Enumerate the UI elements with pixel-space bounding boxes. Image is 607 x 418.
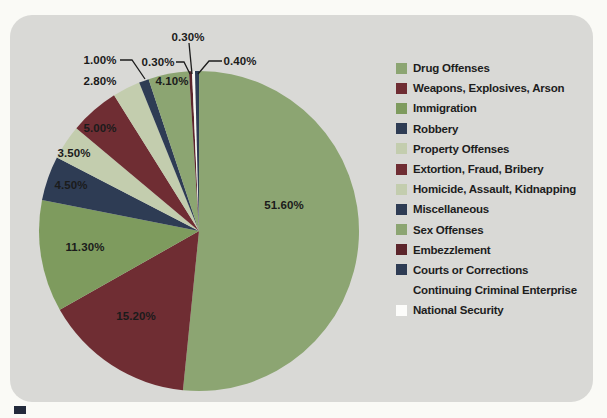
legend-label: National Security (413, 304, 504, 316)
legend-label: Weapons, Explosives, Arson (413, 82, 564, 94)
legend-item-drug-offenses: Drug Offenses (396, 58, 577, 78)
legend-swatch (396, 285, 407, 296)
legend-swatch (396, 184, 407, 195)
legend-label: Drug Offenses (413, 62, 490, 74)
legend-item-extortion-fraud-bribery: Extortion, Fraud, Bribery (396, 159, 577, 179)
legend-item-miscellaneous: Miscellaneous (396, 199, 577, 219)
legend-item-continuing-criminal-enterprise: Continuing Criminal Enterprise (396, 280, 577, 300)
legend-label: Immigration (413, 102, 477, 114)
legend-item-homicide-assault-kidnapping: Homicide, Assault, Kidnapping (396, 179, 577, 199)
legend-item-embezzlement: Embezzlement (396, 240, 577, 260)
legend-swatch (396, 305, 407, 316)
legend-item-property-offenses: Property Offenses (396, 139, 577, 159)
legend-label: Extortion, Fraud, Bribery (413, 163, 543, 175)
legend-swatch (396, 204, 407, 215)
legend-label: Miscellaneous (413, 203, 489, 215)
legend-swatch (396, 143, 407, 154)
legend-item-sex-offenses: Sex Offenses (396, 220, 577, 240)
legend-swatch (396, 224, 407, 235)
legend-label: Continuing Criminal Enterprise (413, 284, 577, 296)
legend-label: Property Offenses (413, 143, 509, 155)
callout-line-continuing-criminal-enterprise (189, 43, 192, 74)
legend-label: Embezzlement (413, 244, 490, 256)
legend-item-courts-or-corrections: Courts or Corrections (396, 260, 577, 280)
pie-slice-drug-offenses (183, 71, 359, 391)
callout-line-miscellaneous (120, 60, 145, 79)
legend-swatch (396, 63, 407, 74)
legend-item-weapons-explosives-arson: Weapons, Explosives, Arson (396, 78, 577, 98)
legend-label: Homicide, Assault, Kidnapping (413, 183, 576, 195)
legend-swatch (396, 244, 407, 255)
legend-swatch (396, 103, 407, 114)
legend-label: Robbery (413, 123, 458, 135)
legend-item-national-security: National Security (396, 300, 577, 320)
legend-swatch (396, 264, 407, 275)
legend-swatch (396, 164, 407, 175)
legend-label: Sex Offenses (413, 224, 483, 236)
figure: 51.60%15.20%11.30%4.50%3.50%5.00%2.80%1.… (0, 0, 607, 418)
legend-swatch (396, 123, 407, 134)
legend-swatch (396, 83, 407, 94)
figure-marker-square (14, 406, 26, 414)
legend-item-immigration: Immigration (396, 98, 577, 118)
legend-label: Courts or Corrections (413, 264, 528, 276)
legend: Drug OffensesWeapons, Explosives, ArsonI… (396, 58, 577, 320)
legend-item-robbery: Robbery (396, 119, 577, 139)
